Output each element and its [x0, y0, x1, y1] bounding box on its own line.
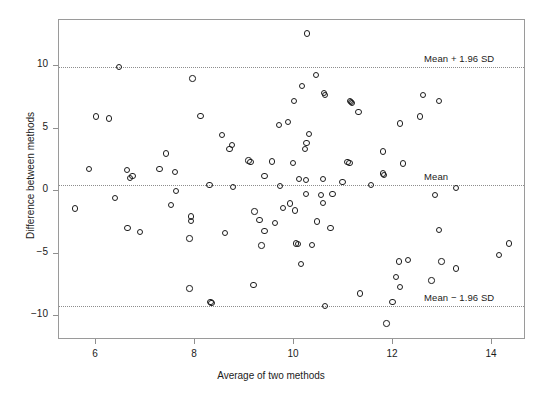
- data-point: [453, 265, 459, 271]
- x-tick-10: [293, 339, 294, 344]
- data-point: [303, 191, 309, 197]
- data-point: [280, 205, 286, 211]
- data-point: [436, 227, 442, 233]
- data-point: [417, 113, 423, 119]
- data-point: [339, 179, 345, 185]
- y-tick--10: [53, 315, 58, 316]
- data-point: [291, 98, 297, 104]
- data-point: [381, 172, 387, 178]
- data-point: [230, 184, 236, 190]
- data-point: [226, 146, 232, 152]
- data-point: [302, 146, 308, 152]
- data-point: [272, 220, 278, 226]
- data-point: [298, 261, 304, 267]
- data-point: [258, 242, 264, 248]
- data-point: [304, 30, 310, 36]
- plot-panel: [58, 19, 525, 339]
- data-point: [329, 191, 335, 197]
- data-points-layer: [59, 20, 524, 338]
- reference-label-lower-limit-of-agreement: Mean − 1.96 SD: [424, 292, 494, 303]
- x-tick-label-6: 6: [75, 348, 115, 359]
- data-point: [106, 115, 112, 121]
- data-point: [290, 160, 296, 166]
- data-point: [277, 183, 283, 189]
- data-point: [306, 131, 312, 137]
- data-point: [322, 92, 328, 98]
- data-point: [256, 217, 262, 223]
- data-point: [327, 225, 333, 231]
- data-point: [251, 208, 257, 214]
- data-point: [208, 300, 214, 306]
- data-point: [127, 175, 133, 181]
- x-tick-label-14: 14: [471, 348, 511, 359]
- bland-altman-plot: 681012141050−5−10 Average of two methods…: [0, 0, 542, 394]
- data-point: [168, 202, 174, 208]
- data-point: [261, 228, 267, 234]
- data-point: [320, 176, 326, 182]
- data-point: [124, 225, 130, 231]
- data-point: [247, 159, 253, 165]
- data-point: [285, 119, 291, 125]
- y-tick--5: [53, 253, 58, 254]
- x-tick-14: [491, 339, 492, 344]
- data-point: [349, 100, 355, 106]
- data-point: [380, 148, 386, 154]
- data-point: [400, 160, 406, 166]
- data-point: [173, 188, 179, 194]
- data-point: [261, 173, 267, 179]
- data-point: [186, 235, 192, 241]
- data-point: [276, 122, 282, 128]
- data-point: [197, 113, 203, 119]
- y-tick-label--10: −10: [12, 308, 48, 319]
- data-point: [453, 185, 459, 191]
- data-point: [436, 98, 442, 104]
- reference-label-mean: Mean: [424, 171, 448, 182]
- data-point: [320, 200, 326, 206]
- data-point: [389, 299, 395, 305]
- data-point: [269, 158, 275, 164]
- data-point: [186, 285, 192, 291]
- data-point: [309, 242, 315, 248]
- data-point: [393, 274, 399, 280]
- data-point: [313, 72, 319, 78]
- x-tick-12: [392, 339, 393, 344]
- data-point: [420, 92, 426, 98]
- x-axis-label: Average of two methods: [0, 370, 542, 381]
- data-point: [357, 290, 363, 296]
- data-point: [299, 83, 305, 89]
- data-point: [346, 160, 352, 166]
- data-point: [163, 150, 169, 156]
- data-point: [432, 192, 438, 198]
- data-point: [287, 200, 293, 206]
- data-point: [397, 120, 403, 126]
- data-point: [314, 218, 320, 224]
- data-point: [383, 320, 389, 326]
- data-point: [397, 284, 403, 290]
- data-point: [292, 207, 298, 213]
- data-point: [368, 182, 374, 188]
- x-tick-8: [194, 339, 195, 344]
- data-point: [72, 205, 78, 211]
- data-point: [250, 282, 256, 288]
- y-tick-0: [53, 190, 58, 191]
- data-point: [137, 229, 143, 235]
- data-point: [222, 230, 228, 236]
- data-point: [188, 218, 194, 224]
- data-point: [303, 177, 309, 183]
- x-tick-label-10: 10: [273, 348, 313, 359]
- data-point: [295, 241, 301, 247]
- data-point: [112, 195, 118, 201]
- data-point: [93, 113, 99, 119]
- x-tick-label-12: 12: [372, 348, 412, 359]
- data-point: [116, 64, 122, 70]
- data-point: [438, 258, 444, 264]
- data-point: [355, 109, 361, 115]
- data-point: [219, 132, 225, 138]
- x-tick-label-8: 8: [174, 348, 214, 359]
- data-point: [156, 166, 162, 172]
- data-point: [206, 182, 212, 188]
- data-point: [396, 258, 402, 264]
- data-point: [506, 240, 512, 246]
- y-tick-10: [53, 65, 58, 66]
- data-point: [86, 166, 92, 172]
